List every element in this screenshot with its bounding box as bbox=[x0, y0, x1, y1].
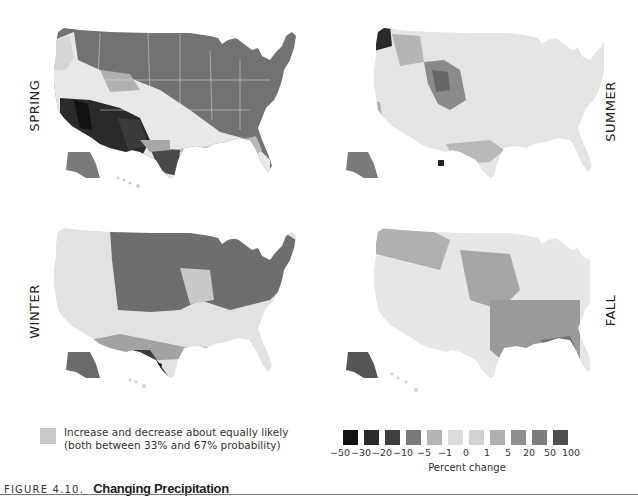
season-label-fall: FALL bbox=[603, 279, 618, 343]
alaska-shape bbox=[346, 152, 378, 178]
scale-swatch bbox=[427, 430, 442, 445]
scale-tick-label: 50 bbox=[544, 447, 556, 458]
us-map-spring bbox=[0, 0, 300, 200]
map-panel-summer bbox=[320, 0, 620, 200]
legend-equal-line2: (both between 33% and 67% probability) bbox=[64, 439, 288, 452]
season-label-summer: SUMMER bbox=[603, 80, 618, 144]
scale-swatch bbox=[490, 430, 505, 445]
scale-swatch bbox=[364, 430, 379, 445]
scale-swatch bbox=[511, 430, 526, 445]
us-map-fall bbox=[320, 200, 620, 400]
map-panel-winter bbox=[0, 200, 300, 400]
scale-swatch bbox=[532, 430, 547, 445]
scale-tick-label: −30 bbox=[351, 447, 371, 458]
scale-swatch bbox=[343, 430, 358, 445]
scale-swatches bbox=[343, 430, 603, 445]
scale-tick-label: 100 bbox=[562, 447, 580, 458]
map-panel-fall bbox=[320, 200, 620, 400]
scale-tick-label: 5 bbox=[505, 447, 511, 458]
alaska-shape bbox=[66, 152, 100, 178]
us-map-summer bbox=[320, 0, 620, 200]
legend-equal-text: Increase and decrease about equally like… bbox=[64, 426, 288, 452]
scale-swatch bbox=[448, 430, 463, 445]
scale-tick-label: −50 bbox=[330, 447, 350, 458]
scale-tick-label: 0 bbox=[463, 447, 469, 458]
scale-swatch bbox=[553, 430, 568, 445]
scale-tick-label: −1 bbox=[438, 447, 452, 458]
scale-tick-label: −20 bbox=[372, 447, 392, 458]
scale-swatch bbox=[385, 430, 400, 445]
percent-change-scale: −50−30−20−10−5−10152050100 Percent chang… bbox=[343, 430, 603, 473]
scale-tick-label: 1 bbox=[484, 447, 490, 458]
map-panel-spring bbox=[0, 0, 300, 200]
scale-swatch bbox=[469, 430, 484, 445]
caption-rule bbox=[0, 494, 638, 495]
scale-tick-label: 20 bbox=[523, 447, 535, 458]
legend-equal-line1: Increase and decrease about equally like… bbox=[64, 426, 288, 439]
alaska-shape bbox=[66, 352, 100, 378]
scale-ticks: −50−30−20−10−5−10152050100 bbox=[343, 447, 603, 461]
season-label-winter: WINTER bbox=[27, 280, 42, 344]
scale-tick-label: −5 bbox=[417, 447, 431, 458]
scale-tick-label: −10 bbox=[393, 447, 413, 458]
scale-title: Percent change bbox=[343, 462, 591, 473]
season-label-spring: SPRING bbox=[27, 74, 42, 138]
legend-equal-swatch bbox=[40, 428, 56, 444]
us-map-winter bbox=[0, 200, 300, 400]
scale-swatch bbox=[406, 430, 421, 445]
legend-equally-likely: Increase and decrease about equally like… bbox=[40, 426, 288, 452]
alaska-shape bbox=[346, 352, 378, 378]
